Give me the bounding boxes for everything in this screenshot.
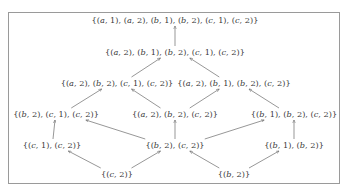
edge-arrow bbox=[249, 89, 279, 108]
node-level4-right: {(b, 1), (b, 2)} bbox=[264, 141, 324, 149]
edge-arrow bbox=[132, 151, 161, 168]
node-level4-middle: {(b, 2), (c, 2)} bbox=[145, 141, 204, 149]
edge-arrow bbox=[190, 58, 220, 77]
edge-arrow bbox=[132, 89, 161, 108]
edge-arrow bbox=[53, 120, 55, 139]
node-bottom-right: {(b, 2)} bbox=[218, 170, 250, 178]
edge-arrow bbox=[71, 89, 102, 108]
node-level3-middle: {(a, 2), (b, 2), (c, 2)} bbox=[132, 110, 218, 118]
node-level3-left: {(b, 2), (c, 1), (c, 2)} bbox=[13, 110, 99, 118]
node-level2-left: {(a, 2), (b, 2), (c, 1), (c, 2)} bbox=[61, 79, 174, 87]
node-bottom-left: {(c, 2)} bbox=[101, 170, 133, 178]
edge-arrow bbox=[86, 120, 146, 139]
node-level1: {(a, 2), (b, 1), (b, 2), (c, 1), (c, 2)} bbox=[105, 48, 245, 56]
node-level4-left: {(c, 1), (c, 2)} bbox=[23, 141, 81, 149]
edge-arrow bbox=[190, 151, 220, 168]
node-top: {(a, 1), (a, 2), (b, 1), (b, 2), (c, 1),… bbox=[92, 16, 259, 24]
edge-arrow bbox=[190, 89, 220, 108]
edge-arrow bbox=[132, 58, 161, 77]
node-level2-right: {(a, 2), (b, 1), (b, 2), (c, 2)} bbox=[177, 79, 290, 87]
edge-arrow bbox=[205, 120, 265, 139]
edge-arrow bbox=[68, 151, 101, 168]
edges-layer bbox=[0, 0, 349, 193]
node-level3-right: {(b, 1), (b, 2), (c, 2)} bbox=[251, 110, 337, 118]
edge-arrow bbox=[249, 151, 279, 168]
